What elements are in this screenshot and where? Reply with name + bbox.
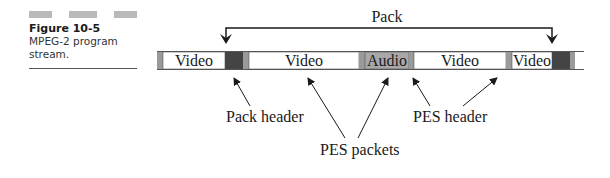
pes-header-segment bbox=[570, 52, 575, 69]
audio-segment-label: Audio bbox=[367, 52, 407, 69]
video-segment-label: Video bbox=[513, 52, 551, 69]
video-segment-label: Video bbox=[441, 52, 479, 69]
pes-header-segment bbox=[359, 52, 365, 69]
pes-packets-label: PES packets bbox=[320, 141, 400, 159]
pes-packets-arrow-left bbox=[308, 78, 345, 138]
program-stream-diagram: Pack Video Video Audio Video Video Pack bbox=[0, 0, 610, 178]
pack-header-segment bbox=[225, 52, 243, 69]
pack-bracket: Pack bbox=[220, 8, 558, 44]
pes-header-label: PES header bbox=[413, 108, 488, 125]
video-segment-label: Video bbox=[175, 52, 213, 69]
pack-label: Pack bbox=[371, 8, 402, 25]
pes-header-arrow-right bbox=[463, 78, 497, 106]
pack-bracket-line bbox=[226, 28, 552, 42]
pack-header-label: Pack header bbox=[226, 108, 304, 125]
pes-packets-arrow-right bbox=[358, 78, 388, 138]
pes-header-segment bbox=[243, 52, 249, 69]
payload-segment bbox=[575, 52, 583, 69]
video-segment-label: Video bbox=[285, 52, 323, 69]
pes-header-segment bbox=[157, 52, 163, 69]
pack-header-arrow bbox=[234, 78, 250, 106]
pes-header-arrow-left bbox=[413, 78, 430, 106]
stream-bar: Video Video Audio Video Video bbox=[157, 52, 584, 70]
pack-header-segment bbox=[552, 52, 570, 69]
pes-header-segment bbox=[506, 52, 512, 69]
pes-header-segment bbox=[409, 52, 414, 69]
